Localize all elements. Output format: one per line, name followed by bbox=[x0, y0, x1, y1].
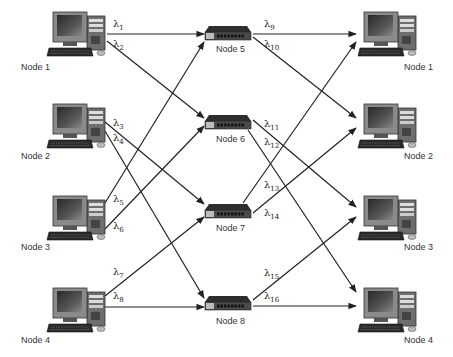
source-node-4: Node 4 bbox=[21, 288, 105, 345]
wavelength-label-14: λ14 bbox=[264, 207, 280, 221]
wavelength-label-16: λ16 bbox=[264, 290, 280, 304]
wavelength-label-4: λ4 bbox=[113, 132, 124, 146]
dest-node-1-label: Node 1 bbox=[404, 62, 433, 72]
switch-node-7: Node 7 bbox=[205, 204, 251, 233]
dest-node-2-label: Node 2 bbox=[404, 151, 433, 161]
switch-icon bbox=[205, 204, 251, 218]
link-src2-to-sw7 bbox=[105, 122, 204, 204]
wavelength-label-10: λ10 bbox=[264, 38, 279, 52]
wavelength-label-11: λ11 bbox=[264, 118, 279, 132]
link-sw6-to-dst3 bbox=[253, 120, 356, 207]
switch-node-5-label: Node 5 bbox=[216, 44, 245, 54]
wavelength-label-8: λ8 bbox=[113, 290, 124, 304]
source-node-3-label: Node 3 bbox=[21, 242, 50, 252]
dest-node-3: Node 3 bbox=[358, 196, 433, 252]
computer-icon bbox=[47, 288, 105, 332]
wavelength-label-1: λ1 bbox=[113, 18, 124, 32]
link-src1-to-sw6 bbox=[107, 41, 204, 118]
computer-icon bbox=[47, 12, 105, 56]
source-node-2: Node 2 bbox=[21, 104, 105, 161]
computer-icon bbox=[358, 12, 416, 56]
computer-icon bbox=[358, 288, 416, 332]
computer-icon bbox=[358, 104, 416, 148]
wavelength-label-13: λ13 bbox=[264, 179, 279, 193]
wavelength-label-2: λ2 bbox=[113, 38, 124, 52]
switch-node-5: Node 5 bbox=[205, 26, 251, 54]
computer-icon bbox=[358, 196, 416, 240]
source-node-2-label: Node 2 bbox=[21, 151, 50, 161]
dest-node-4-label: Node 4 bbox=[404, 335, 433, 345]
dest-node-3-label: Node 3 bbox=[404, 242, 433, 252]
switch-node-6-label: Node 6 bbox=[216, 134, 245, 144]
dest-node-2: Node 2 bbox=[358, 104, 433, 161]
source-node-1-label: Node 1 bbox=[21, 62, 50, 72]
dest-node-1: Node 1 bbox=[358, 12, 433, 72]
switch-node-8-label: Node 8 bbox=[216, 316, 245, 326]
switch-icon bbox=[205, 115, 251, 129]
wavelength-label-12: λ12 bbox=[264, 136, 279, 150]
computer-icon bbox=[47, 196, 105, 240]
link-sw8-to-dst3 bbox=[253, 217, 356, 300]
link-sw7-to-dst1 bbox=[243, 42, 356, 203]
network-diagram: Node 1 Node 2 Node 3 Node 4 Node 5 Node … bbox=[0, 0, 453, 357]
switch-icon bbox=[205, 296, 251, 310]
source-node-1: Node 1 bbox=[21, 12, 105, 72]
computer-icon bbox=[47, 104, 105, 148]
switch-node-7-label: Node 7 bbox=[216, 223, 245, 233]
source-node-4-label: Node 4 bbox=[21, 335, 50, 345]
wavelength-label-7: λ7 bbox=[113, 266, 124, 280]
wavelength-labels: λ1λ2λ3λ4λ5λ6λ7λ8λ9λ10λ11λ12λ13λ14λ15λ16 bbox=[113, 18, 280, 304]
wavelength-label-6: λ6 bbox=[113, 220, 124, 234]
source-node-3: Node 3 bbox=[21, 196, 105, 252]
switch-icon bbox=[205, 26, 251, 40]
wavelength-label-5: λ5 bbox=[113, 193, 124, 207]
wavelength-label-9: λ9 bbox=[264, 18, 275, 32]
wavelength-label-3: λ3 bbox=[113, 117, 124, 131]
dest-node-4: Node 4 bbox=[358, 288, 433, 345]
link-sw5-to-dst2 bbox=[253, 37, 356, 118]
links-layer bbox=[105, 34, 356, 307]
switch-node-6: Node 6 bbox=[205, 115, 251, 144]
switch-node-8: Node 8 bbox=[205, 296, 251, 326]
wavelength-label-15: λ15 bbox=[264, 267, 279, 281]
